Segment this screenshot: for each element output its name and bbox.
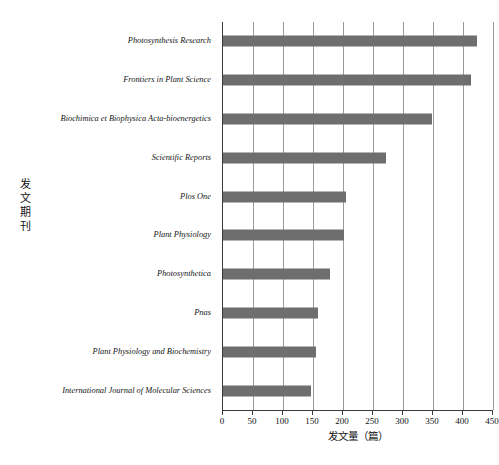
tick-label: 400 — [455, 415, 469, 427]
tick-label: 50 — [248, 415, 257, 427]
bar — [223, 191, 346, 202]
category-label: Plos One — [0, 192, 211, 202]
category-label: Photosynthetica — [0, 269, 211, 279]
bar — [223, 307, 318, 318]
bar — [223, 152, 386, 163]
category-label: Scientific Reports — [0, 153, 211, 163]
bar — [223, 230, 344, 241]
category-label: Photosynthesis Research — [0, 36, 211, 46]
bar-row — [223, 177, 493, 216]
bar — [223, 385, 311, 396]
tick-label: 0 — [220, 415, 225, 427]
category-label: Pnas — [0, 308, 211, 318]
bar-row — [223, 294, 493, 333]
bar — [223, 36, 477, 47]
tick-label: 450 — [485, 415, 499, 427]
category-label: Frontiers in Plant Science — [0, 75, 211, 85]
bar-row — [223, 22, 493, 61]
category-label: Plant Physiology — [0, 230, 211, 240]
category-axis-labels: Photosynthesis ResearchFrontiers in Plan… — [0, 22, 216, 410]
category-label: Biochimica et Biophysica Acta-bioenerget… — [0, 114, 211, 124]
bar — [223, 75, 471, 86]
x-axis-ticks: 050100150200250300350400450 — [222, 411, 493, 429]
gridline — [493, 22, 494, 410]
bar-row — [223, 216, 493, 255]
tick-label: 350 — [425, 415, 439, 427]
category-label: Plant Physiology and Biochemistry — [0, 347, 211, 357]
bar — [223, 113, 432, 124]
bar-row — [223, 61, 493, 100]
bar-row — [223, 255, 493, 294]
tick-label: 300 — [395, 415, 409, 427]
x-axis-title: 发文量（篇） — [222, 428, 493, 443]
bar-row — [223, 371, 493, 410]
tick-label: 100 — [275, 415, 289, 427]
category-label: International Journal of Molecular Scien… — [0, 386, 211, 396]
tick-label: 200 — [335, 415, 349, 427]
tick-label: 250 — [365, 415, 379, 427]
bar-row — [223, 332, 493, 371]
bar — [223, 269, 330, 280]
tick-label: 150 — [305, 415, 319, 427]
bar-row — [223, 138, 493, 177]
bar-row — [223, 100, 493, 139]
plot-area — [222, 22, 493, 411]
bar — [223, 346, 316, 357]
